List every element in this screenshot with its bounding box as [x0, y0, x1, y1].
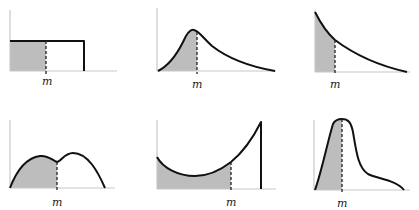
shaded-area — [10, 41, 46, 71]
shaded-area — [315, 12, 335, 72]
median-label: m — [337, 197, 347, 210]
panel-u-shaped: m — [157, 120, 276, 209]
panel-exponential: m — [315, 10, 410, 91]
median-label: m — [52, 196, 62, 209]
panel-right-skewed: m — [157, 8, 276, 91]
median-label: m — [330, 78, 340, 91]
panel-bimodal: m — [10, 120, 115, 209]
panel-peaked-right-skewed: m — [314, 119, 410, 210]
median-label: m — [226, 196, 236, 209]
density-median-figure: m m m m m — [0, 0, 419, 210]
median-label: m — [192, 78, 202, 91]
shaded-area — [157, 157, 231, 189]
panel-uniform: m — [10, 10, 117, 88]
median-label: m — [42, 75, 52, 88]
